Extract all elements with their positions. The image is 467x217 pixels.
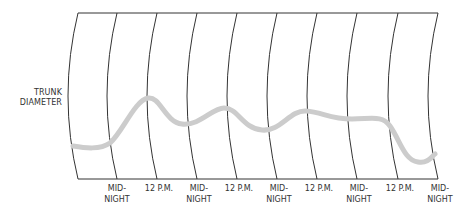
x-label-midnight-3: MID- NIGHT (257, 183, 301, 205)
x-label-noon-4: 12 P.M. (378, 183, 422, 194)
chart-frame (78, 13, 438, 179)
y-axis-label: TRUNK DIAMETER (0, 88, 62, 108)
x-label-midnight-2: MID- NIGHT (177, 183, 221, 205)
x-label-line: MID- (337, 183, 381, 194)
x-label-line: NIGHT (95, 194, 139, 205)
x-label-midnight-5: MID- NIGHT (418, 183, 462, 205)
x-label-line: MID- (418, 183, 462, 194)
x-label-line: NIGHT (177, 194, 221, 205)
x-label-line: NIGHT (337, 194, 381, 205)
y-axis-label-line-2: DIAMETER (0, 98, 62, 108)
x-label-midnight-4: MID- NIGHT (337, 183, 381, 205)
x-label-line: 12 P.M. (297, 183, 341, 194)
x-label-line: 12 P.M. (217, 183, 261, 194)
arc-0 (68, 13, 78, 179)
arc-7 (347, 13, 357, 179)
arc-4 (227, 13, 237, 179)
y-axis-label-line-1: TRUNK (0, 88, 62, 98)
x-label-noon-3: 12 P.M. (297, 183, 341, 194)
x-label-line: 12 P.M. (378, 183, 422, 194)
x-label-midnight-1: MID- NIGHT (95, 183, 139, 205)
arc-1 (107, 13, 117, 179)
x-label-line: MID- (257, 183, 301, 194)
x-label-line: NIGHT (418, 194, 462, 205)
x-label-noon-1: 12 P.M. (137, 183, 181, 194)
x-label-line: MID- (177, 183, 221, 194)
x-label-noon-2: 12 P.M. (217, 183, 261, 194)
arc-6 (307, 13, 317, 179)
trunk-diameter-curve (73, 98, 435, 162)
arc-8 (388, 13, 398, 179)
x-label-line: MID- (95, 183, 139, 194)
arc-3 (187, 13, 197, 179)
x-label-line: NIGHT (257, 194, 301, 205)
arc-5 (267, 13, 277, 179)
x-label-line: 12 P.M. (137, 183, 181, 194)
time-grid-arcs (68, 13, 438, 179)
